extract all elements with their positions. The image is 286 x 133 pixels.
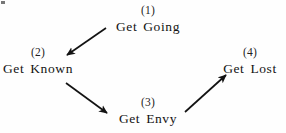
node-number-2: (2) — [0, 47, 88, 59]
node-get-known: (2) Get Known — [0, 47, 88, 75]
node-label-get-envy: Get Envy — [98, 112, 198, 126]
diagram-canvas: (1) Get Going (2) Get Known (3) Get Envy… — [0, 0, 286, 133]
node-label-get-lost: Get Lost — [205, 62, 286, 76]
node-label-get-known: Get Known — [0, 62, 88, 76]
node-number-1: (1) — [98, 5, 198, 17]
node-label-get-going: Get Going — [98, 20, 198, 34]
node-get-lost: (4) Get Lost — [205, 47, 286, 75]
node-get-envy: (3) Get Envy — [98, 97, 198, 125]
node-number-3: (3) — [98, 97, 198, 109]
node-get-going: (1) Get Going — [98, 5, 198, 33]
node-number-4: (4) — [205, 47, 286, 59]
